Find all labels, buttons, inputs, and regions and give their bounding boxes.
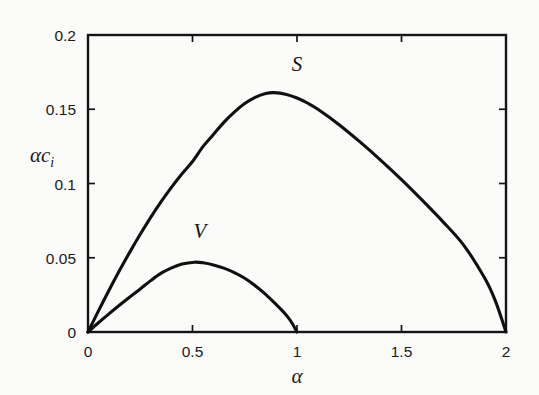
figure-container: 00.511.52 00.050.10.150.2 SV α αci [0, 0, 539, 395]
x-tick-label: 0 [84, 343, 93, 360]
x-tick-label: 1.5 [391, 343, 413, 360]
y-tick-label: 0 [67, 324, 76, 341]
y-tick-label: 0.2 [54, 27, 76, 44]
y-axis-label-subscript: i [50, 155, 54, 170]
x-axis-label: α [291, 364, 303, 388]
chart-background [0, 0, 539, 395]
curve-label-v: V [193, 219, 208, 243]
x-tick-label: 1 [293, 343, 302, 360]
chart-svg: 00.511.52 00.050.10.150.2 SV α αci [0, 0, 539, 395]
y-tick-label: 0.1 [54, 176, 76, 193]
y-axis-label-base: αc [30, 143, 51, 167]
curve-label-s: S [292, 52, 303, 76]
y-tick-label: 0.05 [46, 250, 76, 267]
x-tick-label: 0.5 [182, 343, 204, 360]
x-tick-label: 2 [502, 343, 511, 360]
y-tick-label: 0.15 [46, 101, 76, 118]
